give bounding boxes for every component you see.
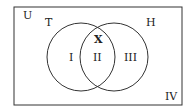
intersection-marker: X <box>94 33 103 46</box>
venn-svg: U T H X I II III IV <box>0 0 188 109</box>
set-h-circle <box>80 23 148 91</box>
universe-label: U <box>23 9 32 22</box>
set-t-circle <box>47 23 115 91</box>
region-ii-label: II <box>93 51 102 64</box>
set-t-label: T <box>45 16 53 29</box>
region-i-label: I <box>69 51 73 64</box>
region-iv-label: IV <box>165 90 178 103</box>
set-h-label: H <box>146 16 156 29</box>
region-iii-label: III <box>124 51 137 64</box>
venn-diagram: U T H X I II III IV <box>0 0 188 109</box>
